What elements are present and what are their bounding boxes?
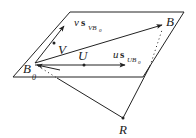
- label-v-sub: VB: [88, 24, 97, 32]
- hidden-r-b: [150, 30, 162, 66]
- label-v-sub0: 0: [99, 28, 102, 33]
- point-u: [83, 64, 86, 67]
- line-r-edge: [123, 66, 150, 118]
- label-u: U: [78, 48, 89, 63]
- label-u-coef: u: [113, 48, 119, 60]
- label-r: R: [118, 122, 127, 137]
- label-v: V: [58, 42, 68, 57]
- point-v: [53, 42, 56, 45]
- label-b0-sub: 0: [32, 73, 36, 82]
- label-b0: B: [23, 61, 31, 76]
- vector-b-b0: [37, 65, 60, 70]
- line-b0-r: [57, 78, 123, 118]
- label-u-s: s: [120, 48, 125, 60]
- label-v-coef: v: [74, 16, 79, 28]
- label-v-s: s: [81, 16, 86, 28]
- point-r: [122, 117, 125, 120]
- label-u-sub: UB: [127, 56, 137, 64]
- vector-plane-diagram: B 0 B V U R v s VB 0 u s UB 0: [0, 0, 196, 138]
- hidden-b0-r: [38, 66, 57, 78]
- label-b: B: [166, 14, 174, 29]
- label-u-sub0: 0: [138, 60, 141, 65]
